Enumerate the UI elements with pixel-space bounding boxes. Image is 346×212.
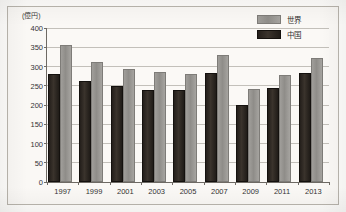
x-tick-mark [172, 182, 173, 185]
bar-china [142, 90, 154, 182]
x-tick-label: 2005 [180, 187, 197, 196]
bar-group [78, 28, 109, 182]
bar-china [205, 73, 217, 182]
bar-group [141, 28, 172, 182]
x-tick-mark [204, 182, 205, 185]
x-tick-label: 2011 [274, 187, 290, 196]
legend-item-world: 世界 [257, 14, 301, 25]
bar-group [235, 28, 266, 182]
bar-china [79, 81, 91, 182]
bar-china [267, 88, 279, 182]
x-tick-mark [47, 182, 48, 185]
bar-group [47, 28, 78, 182]
bar-group [204, 28, 235, 182]
bar-china [173, 90, 185, 182]
x-tick-mark [110, 182, 111, 185]
x-tick-mark [298, 182, 299, 185]
y-tick-label: 100 [30, 139, 43, 148]
bar-china [48, 74, 60, 182]
bar-world [279, 75, 291, 182]
y-tick-label: 250 [30, 81, 43, 90]
legend-item-china: 中国 [257, 29, 301, 40]
x-tick-label: 1997 [54, 187, 71, 196]
y-tick-label: 400 [30, 24, 43, 33]
x-tick-label: 2007 [211, 187, 228, 196]
x-tick-label: 2003 [148, 187, 165, 196]
bar-world [154, 72, 166, 182]
legend-swatch-world-icon [257, 15, 281, 24]
legend-label-china: 中国 [287, 29, 301, 40]
legend-label-world: 世界 [287, 14, 301, 25]
x-tick-label: 2001 [117, 187, 134, 196]
x-tick-label: 1999 [86, 187, 103, 196]
y-tick-label: 300 [30, 62, 43, 71]
y-tick-label: 150 [30, 120, 43, 129]
bar-world [217, 55, 229, 182]
x-tick-mark [78, 182, 79, 185]
bar-china [299, 73, 311, 182]
x-tick-mark [141, 182, 142, 185]
chart-figure: (億円) 050100150200250300350400 1997199920… [0, 0, 346, 212]
x-tick-mark [266, 182, 267, 185]
bar-group [110, 28, 141, 182]
bar-group [266, 28, 297, 182]
x-tick-label: 2009 [242, 187, 259, 196]
x-tick-mark [235, 182, 236, 185]
bar-china [236, 105, 248, 182]
plot-area: 050100150200250300350400 199719992001200… [46, 28, 329, 183]
bar-world [248, 89, 260, 182]
x-tick-mark [329, 182, 330, 185]
x-tick-label: 2013 [305, 187, 322, 196]
bar-world [60, 45, 72, 182]
bar-china [111, 86, 123, 182]
y-tick-label: 200 [30, 101, 43, 110]
bar-group [298, 28, 329, 182]
y-tick-label: 0 [39, 178, 43, 187]
bar-group [172, 28, 203, 182]
bar-series-container [47, 28, 329, 182]
bar-world [91, 62, 103, 182]
chart-legend: 世界 中国 [257, 14, 301, 40]
y-tick-label: 350 [30, 43, 43, 52]
y-tick-label: 50 [35, 158, 43, 167]
bar-world [311, 58, 323, 182]
y-axis-unit-label: (億円) [22, 10, 41, 20]
legend-swatch-china-icon [257, 30, 281, 39]
bar-world [123, 69, 135, 182]
bar-world [185, 74, 197, 182]
